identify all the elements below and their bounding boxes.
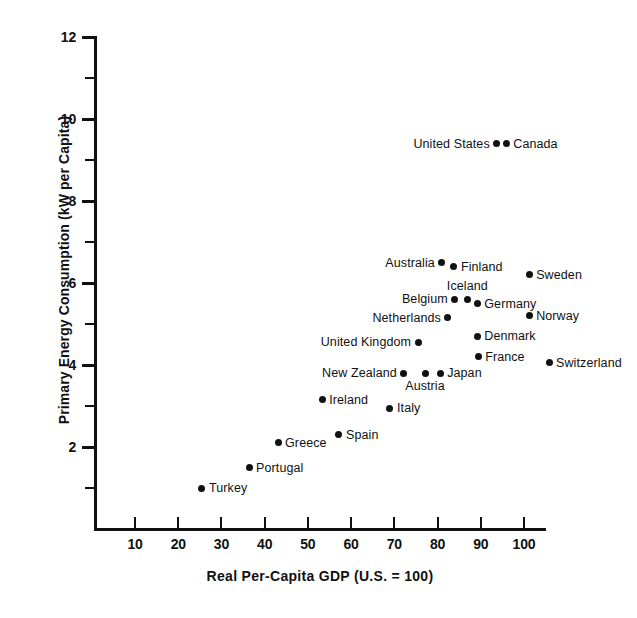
- data-point-label-australia: Australia: [385, 256, 435, 269]
- x-tick-label-10: 10: [127, 537, 142, 551]
- x-tick-label-70: 70: [387, 537, 402, 551]
- data-point-label-italy: Italy: [397, 402, 420, 415]
- data-point-label-germany: Germany: [484, 297, 536, 310]
- data-point-label-united-states: United States: [413, 137, 489, 150]
- data-point-label-spain: Spain: [346, 428, 378, 441]
- y-tick-label-12: 12: [50, 30, 76, 44]
- x-tick-70: [393, 517, 395, 529]
- data-point-label-ireland: Ireland: [329, 394, 368, 407]
- x-axis-line: [94, 528, 546, 531]
- data-point-austria[interactable]: [422, 370, 429, 377]
- x-tick-20: [177, 517, 179, 529]
- data-point-ireland[interactable]: [319, 396, 326, 403]
- data-point-portugal[interactable]: [246, 464, 253, 471]
- data-point-netherlands[interactable]: [444, 314, 451, 321]
- data-point-belgium[interactable]: [451, 296, 458, 303]
- data-point-label-greece: Greece: [285, 437, 327, 450]
- data-point-france[interactable]: [475, 353, 482, 360]
- data-point-united-states[interactable]: [493, 140, 500, 147]
- data-point-label-denmark: Denmark: [484, 330, 535, 343]
- x-tick-80: [437, 517, 439, 529]
- data-point-label-sweden: Sweden: [536, 269, 582, 282]
- data-point-germany[interactable]: [474, 300, 481, 307]
- y-tick-4: [82, 364, 95, 367]
- x-tick-label-80: 80: [430, 537, 445, 551]
- y-tick-2: [82, 446, 95, 449]
- data-point-italy[interactable]: [386, 405, 393, 412]
- x-tick-90: [480, 517, 482, 529]
- data-point-label-finland: Finland: [461, 260, 503, 273]
- x-tick-30: [220, 517, 222, 529]
- x-tick-label-60: 60: [344, 537, 359, 551]
- scatter-chart-figure: 24681012 102030405060708090100 Primary E…: [0, 0, 637, 618]
- data-point-sweden[interactable]: [526, 271, 533, 278]
- data-point-turkey[interactable]: [198, 485, 205, 492]
- data-point-greece[interactable]: [275, 439, 282, 446]
- y-tick-5: [85, 323, 95, 325]
- y-tick-7: [85, 241, 95, 243]
- data-point-canada[interactable]: [503, 140, 510, 147]
- x-tick-60: [350, 517, 352, 529]
- data-point-australia[interactable]: [438, 259, 445, 266]
- data-point-label-switzerland: Switzerland: [556, 357, 622, 370]
- x-tick-100: [523, 517, 525, 529]
- data-point-switzerland[interactable]: [546, 359, 553, 366]
- y-tick-10: [82, 118, 95, 121]
- data-point-iceland[interactable]: [464, 296, 471, 303]
- data-point-norway[interactable]: [526, 312, 533, 319]
- data-point-label-portugal: Portugal: [256, 461, 303, 474]
- data-point-finland[interactable]: [450, 263, 457, 270]
- y-axis-title: Primary Energy Consumption (kW per Capit…: [56, 90, 72, 450]
- x-tick-label-20: 20: [171, 537, 186, 551]
- data-point-label-canada: Canada: [513, 137, 557, 150]
- data-point-united-kingdom[interactable]: [415, 339, 422, 346]
- data-point-label-belgium: Belgium: [402, 293, 448, 306]
- data-point-label-austria: Austria: [405, 380, 445, 393]
- data-point-spain[interactable]: [335, 431, 342, 438]
- data-point-label-new-zealand: New Zealand: [322, 367, 397, 380]
- y-tick-8: [82, 200, 95, 203]
- y-tick-6: [82, 282, 95, 285]
- data-point-label-turkey: Turkey: [209, 482, 247, 495]
- x-tick-10: [134, 517, 136, 529]
- y-tick-9: [85, 159, 95, 161]
- x-tick-label-90: 90: [473, 537, 488, 551]
- x-tick-label-30: 30: [214, 537, 229, 551]
- x-tick-40: [264, 517, 266, 529]
- x-axis-title: Real Per-Capita GDP (U.S. = 100): [94, 568, 546, 584]
- data-point-label-japan: Japan: [447, 367, 482, 380]
- data-point-japan[interactable]: [437, 370, 444, 377]
- y-tick-3: [85, 405, 95, 407]
- y-tick-12: [82, 36, 95, 39]
- data-point-denmark[interactable]: [474, 333, 481, 340]
- data-point-label-norway: Norway: [536, 310, 579, 323]
- data-point-label-united-kingdom: United Kingdom: [321, 336, 411, 349]
- data-point-label-netherlands: Netherlands: [372, 312, 441, 325]
- data-point-label-france: France: [485, 351, 525, 364]
- data-point-label-iceland: Iceland: [447, 280, 488, 293]
- y-tick-11: [85, 77, 95, 79]
- x-tick-label-50: 50: [300, 537, 315, 551]
- y-tick-1: [85, 487, 95, 489]
- x-tick-50: [307, 517, 309, 529]
- data-point-new-zealand[interactable]: [400, 370, 407, 377]
- x-tick-label-100: 100: [513, 537, 536, 551]
- x-tick-label-40: 40: [257, 537, 272, 551]
